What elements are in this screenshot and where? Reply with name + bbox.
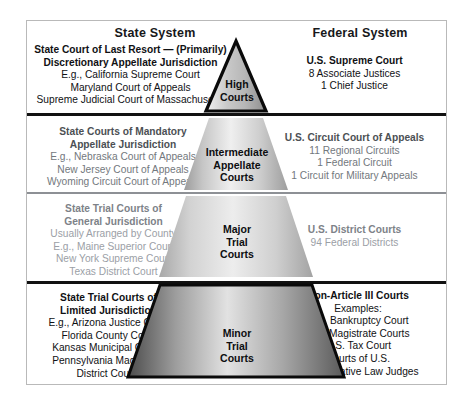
federal-tier1-text: U.S. Supreme Court8 Associate Justices1 … — [272, 55, 437, 93]
pyramid-label-line: Trial — [200, 340, 274, 353]
pyramid-label-line: Appellate — [183, 159, 291, 172]
tier-divider-3 — [27, 281, 446, 284]
pyramid-label-line: Minor — [200, 327, 274, 340]
column-heading-state: State System — [55, 26, 255, 40]
pyramid-label-line: High — [205, 78, 269, 91]
text-line-bold: General Jurisdiction — [26, 216, 201, 229]
text-line: Kansas Municipal Courts — [26, 342, 191, 355]
pyramid-label-line: Intermediate — [183, 146, 291, 159]
text-line: Maryland Court of Appeals — [28, 82, 233, 95]
text-line: Texas District Court — [26, 266, 201, 279]
text-line: 8 Associate Justices — [272, 68, 437, 81]
state-tier3-text: State Trial Courts ofGeneral Jurisdictio… — [26, 203, 201, 279]
pyramid-label-line: Trial — [200, 236, 274, 249]
federal-tier3-text: U.S. District Courts94 Federal Districts — [272, 224, 437, 249]
pyramid-label-intermediate: IntermediateAppellateCourts — [183, 146, 291, 184]
text-line: Administrative Law Judges — [272, 366, 444, 379]
text-line: Usually Arranged by County — [26, 228, 201, 241]
text-line: Supreme Judicial Court of Massachusetts — [28, 94, 233, 107]
text-line-bold: Non-Article III Courts — [272, 290, 444, 303]
text-line: U.S. Magistrate Courts — [272, 328, 444, 341]
text-line: E.g., California Supreme Court — [28, 69, 233, 82]
pyramid-label-line: Major — [200, 223, 274, 236]
text-line: 1 Chief Justice — [272, 80, 437, 93]
text-line: E.g., Maine Superior Court — [26, 241, 201, 254]
text-line-bold: U.S. District Courts — [272, 224, 437, 237]
pyramid-label-major: MajorTrialCourts — [200, 223, 274, 261]
text-line-bold: Limited Jurisdiction — [26, 305, 191, 318]
state-tier1-text: State Court of Last Resort — (Primarily)… — [28, 44, 233, 107]
pyramid-label-line: Courts — [200, 352, 274, 365]
tier-divider-1 — [27, 113, 446, 116]
text-line: 94 Federal Districts — [272, 237, 437, 250]
column-heading-federal: Federal System — [270, 26, 450, 40]
text-line-bold: U.S. Supreme Court — [272, 55, 437, 68]
pyramid-label-minor: MinorTrialCourts — [200, 327, 274, 365]
pyramid-label-high: HighCourts — [205, 78, 269, 103]
text-line: U.S. Bankruptcy Court — [272, 315, 444, 328]
pyramid-label-line: Courts — [183, 171, 291, 184]
text-line-bold: Discretionary Appellate Jurisdiction — [28, 57, 233, 70]
pyramid-label-line: Courts — [200, 248, 274, 261]
federal-tier4-text: Non-Article III CourtsExamples:U.S. Bank… — [272, 290, 444, 378]
text-line: U.S. Tax Court — [272, 340, 444, 353]
text-line: District Courts — [26, 368, 191, 381]
text-line-bold: U.S. Circuit Court of Appeals — [262, 132, 447, 145]
text-line-bold: State Trial Courts of — [26, 203, 201, 216]
text-line-bold: State Trial Courts of — [26, 292, 191, 305]
text-line: Courts of U.S. — [272, 353, 444, 366]
text-line: New York Supreme Court — [26, 253, 201, 266]
tier-divider-2 — [27, 192, 446, 194]
state-tier4-text: State Trial Courts ofLimited Jurisdictio… — [26, 292, 191, 380]
text-line-bold: State Court of Last Resort — (Primarily) — [28, 44, 233, 57]
text-line: Pennsylvania Magisterial — [26, 355, 191, 368]
text-line-bold: State Courts of Mandatory — [28, 126, 218, 139]
text-line: Examples: — [272, 303, 444, 316]
pyramid-label-line: Courts — [205, 91, 269, 104]
court-systems-diagram: State System Federal System State Court … — [0, 0, 471, 400]
text-line: Florida County Court — [26, 330, 191, 343]
text-line: E.g., Arizona Justice Court — [26, 317, 191, 330]
